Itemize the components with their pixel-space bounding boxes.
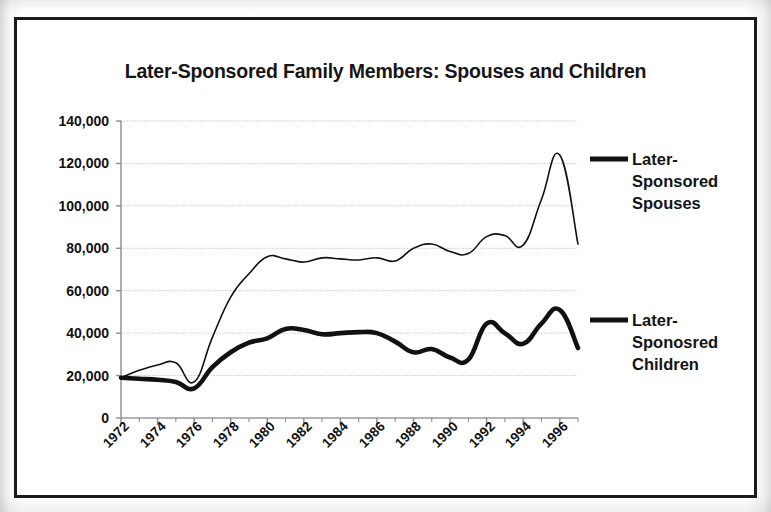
y-axis-tick-label: 0	[17, 410, 109, 426]
y-axis-tick-label: 100,000	[17, 198, 109, 214]
y-axis-tick-label: 60,000	[17, 283, 109, 299]
y-axis-tick-label: 140,000	[17, 113, 109, 129]
legend-label-1: Later- Sponsored Spouses	[632, 148, 718, 214]
legend-label-2: Later- Sponosred Children	[632, 309, 718, 375]
legend-line-swatches	[590, 159, 628, 320]
y-axis-tick-label: 120,000	[17, 155, 109, 171]
y-axis-tick-label: 40,000	[17, 325, 109, 341]
scanned-page-background: Later-Sponsored Family Members: Spouses …	[0, 0, 771, 512]
y-axis-tick-label: 80,000	[17, 240, 109, 256]
series-line-2	[121, 308, 578, 389]
series-line-1	[121, 153, 578, 383]
figure-frame: Later-Sponsored Family Members: Spouses …	[14, 17, 757, 498]
data-series-lines	[121, 153, 578, 389]
axis-lines	[121, 121, 578, 418]
y-axis-tick-label: 20,000	[17, 368, 109, 384]
